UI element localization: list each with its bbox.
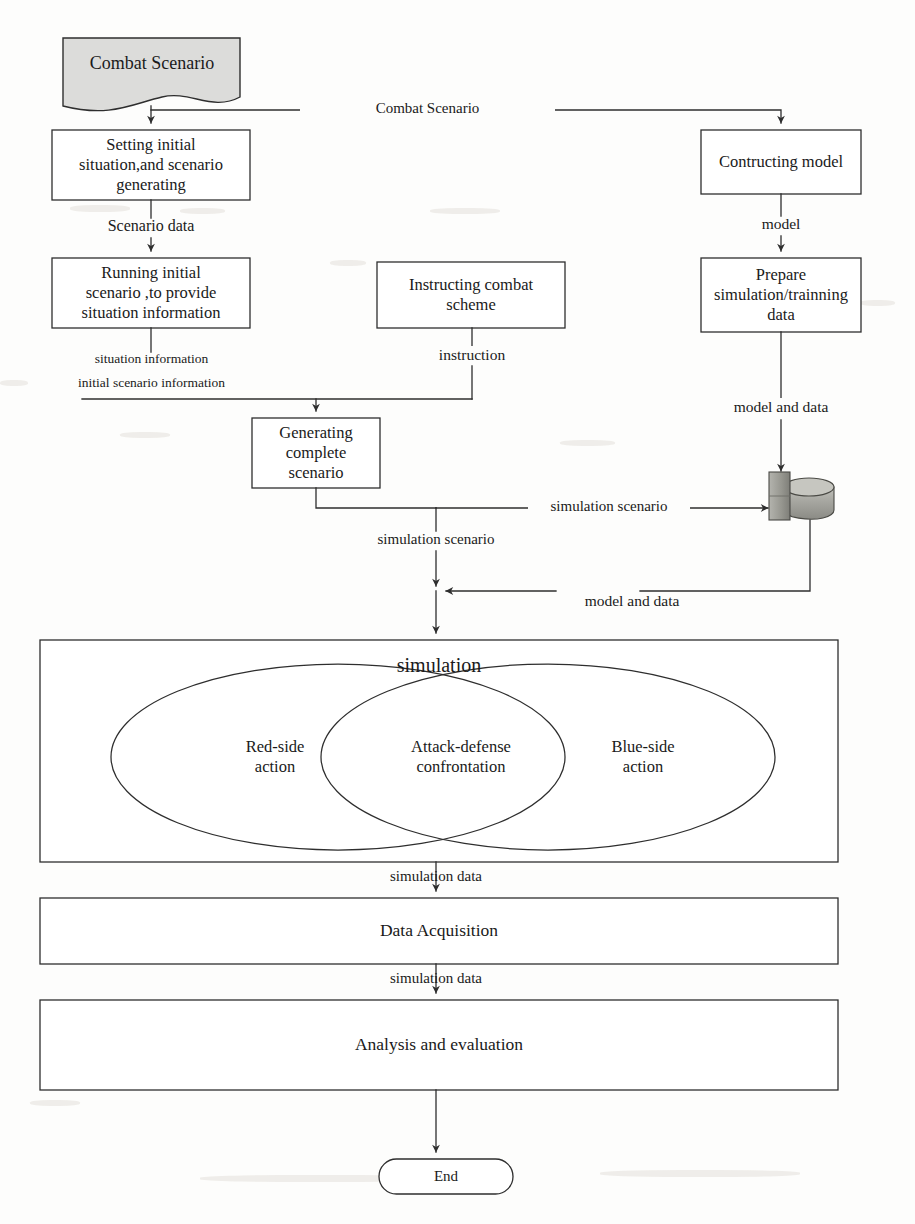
prepare-data-box bbox=[701, 258, 861, 332]
instructing-scheme-box bbox=[377, 262, 565, 328]
database-icon bbox=[769, 472, 834, 520]
edge-doc-right-to-contructing bbox=[555, 110, 781, 123]
edge-label-situation-information: situation information bbox=[64, 352, 239, 367]
running-initial-box bbox=[52, 258, 250, 328]
edge-label-model-and-data-down: model and data bbox=[705, 398, 857, 415]
edge-label-simulation-data-1: simulation data bbox=[356, 868, 516, 885]
edge-label-simulation-data-2: simulation data bbox=[356, 970, 516, 987]
edge-label-model: model bbox=[722, 215, 840, 232]
edge-label-initial-scenario-information: initial scenario information bbox=[51, 376, 252, 391]
edge-generating-down-right bbox=[316, 488, 436, 508]
flowchart-canvas: Combat Scenario Setting initial situatio… bbox=[0, 0, 915, 1224]
flowchart-vector-layer bbox=[0, 0, 915, 1224]
edge-label-instruction: instruction bbox=[402, 346, 542, 363]
edge-label-simulation-scenario-down: simulation scenario bbox=[356, 531, 516, 548]
edge-label-scenario-data: Scenario data bbox=[71, 217, 231, 235]
edge-database-return-a bbox=[640, 520, 810, 591]
generating-complete-box bbox=[252, 418, 380, 488]
contructing-model-box bbox=[701, 130, 861, 194]
edge-label-simulation-scenario-right: simulation scenario bbox=[528, 498, 690, 515]
analysis-evaluation-box bbox=[40, 1000, 838, 1090]
setting-initial-box bbox=[52, 130, 250, 200]
data-acquisition-box bbox=[40, 898, 838, 964]
end-terminator-shape bbox=[379, 1159, 513, 1194]
edge-label-combat-scenario: Combat Scenario bbox=[300, 100, 555, 117]
edge-label-model-and-data-return: model and data bbox=[556, 592, 708, 609]
combat-scenario-document-shape bbox=[63, 38, 240, 111]
